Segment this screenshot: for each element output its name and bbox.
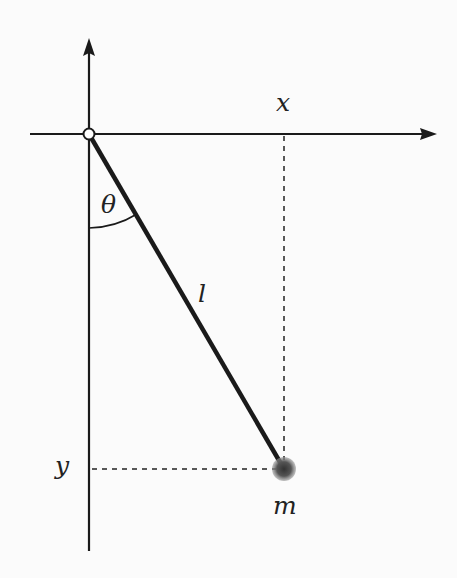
pendulum-diagram: x y θ l m: [0, 0, 457, 578]
diagram-canvas: [0, 0, 457, 578]
angle-label: θ: [101, 192, 116, 217]
pivot-icon: [84, 129, 95, 140]
length-label: l: [198, 281, 206, 306]
x-label: x: [276, 90, 290, 115]
bob-mass: [272, 457, 296, 481]
x-axis-arrow-icon: [420, 128, 437, 140]
y-label: y: [55, 453, 69, 478]
mass-label: m: [273, 493, 297, 518]
pendulum-rod: [89, 134, 284, 469]
y-axis: [83, 38, 95, 551]
